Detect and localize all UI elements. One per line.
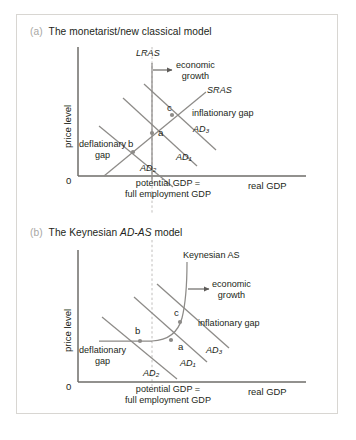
- panel-a-origin-label: 0: [66, 175, 71, 186]
- panel-b-point-b-label: b: [135, 325, 140, 336]
- panel-a-point-a-label: a: [158, 127, 163, 138]
- panel-b-ad2-label: AD₂: [143, 368, 159, 379]
- panel-a-deflationary-gap-line1: deflationary: [79, 139, 126, 149]
- panel-b-point-c-marker: [178, 320, 182, 324]
- panel-b-x-caption-line1: potential GDP =: [136, 384, 200, 394]
- panel-b-economic-growth-line2: growth: [218, 290, 245, 300]
- panel-a-point-c-label: c: [167, 102, 172, 113]
- panel-b-deflationary-gap-label: deflationary gap: [79, 345, 126, 366]
- panel-a-x-axis-label: real GDP: [248, 180, 287, 191]
- panel-a-x-caption-line2: full employment GDP: [125, 189, 211, 199]
- panel-b-economic-growth-line1: economic: [212, 279, 251, 289]
- panel-b-y-axis-label: price level: [62, 309, 73, 352]
- panel-b-x-axis-label: real GDP: [248, 386, 287, 397]
- panel-a-point-a-marker: [150, 131, 154, 135]
- panel-b-ad1-label: AD₁: [180, 358, 196, 369]
- panel-a-economic-growth-line2: growth: [182, 71, 209, 81]
- panel-a-sras-label: SRAS: [207, 85, 232, 96]
- panel-b-inflationary-gap-label: inflationary gap: [198, 318, 260, 329]
- panel-b-economic-growth-label: economic growth: [212, 279, 251, 300]
- panel-b-point-b-marker: [138, 339, 142, 343]
- panel-a-economic-growth-line1: economic: [176, 60, 215, 70]
- panel-a-ad2-label: AD₂: [140, 163, 156, 174]
- panel-a-ad3-label: AD₃: [193, 124, 209, 135]
- panel-a-economic-growth-label: economic growth: [176, 60, 215, 81]
- panel-a-deflationary-gap-line2: gap: [95, 150, 110, 160]
- panel-b-point-a-marker: [169, 338, 173, 342]
- panel-b-origin-label: 0: [66, 381, 71, 392]
- panel-b-point-a-label: a: [178, 341, 183, 352]
- panel-b-ad3-label: AD₃: [206, 345, 222, 356]
- panel-a-inflationary-gap-label: inflationary gap: [192, 108, 254, 119]
- panel-b-point-c-label: c: [174, 307, 179, 318]
- panel-a-ad1-label: AD₁: [176, 152, 192, 163]
- panel-b-x-axis-caption: potential GDP = full employment GDP: [103, 384, 233, 405]
- figure-container: (a)The monetarist/new classical model (b…: [0, 0, 356, 440]
- panel-a-point-c-marker: [170, 113, 174, 117]
- panel-a-y-axis-label: price level: [62, 105, 73, 148]
- panel-a-point-b-label: b: [128, 138, 133, 149]
- panel-b-keynesian-as-italic: AS: [228, 250, 240, 260]
- panel-b-x-caption-line2: full employment GDP: [125, 395, 211, 405]
- panel-b-keynesian-as-label: Keynesian AS: [183, 250, 240, 261]
- panel-a-point-b-marker: [131, 150, 135, 154]
- panel-b-keynesian-as-curve: [99, 262, 187, 341]
- panel-b-deflationary-gap-line2: gap: [95, 356, 110, 366]
- panel-b-deflationary-gap-line1: deflationary: [79, 345, 126, 355]
- panel-a-lras-label: LRAS: [136, 48, 160, 59]
- panel-a-deflationary-gap-label: deflationary gap: [79, 139, 126, 160]
- panel-b-keynesian-as-pre: Keynesian: [183, 250, 228, 260]
- panel-a-x-caption-line1: potential GDP =: [136, 178, 200, 188]
- panel-a-x-axis-caption: potential GDP = full employment GDP: [103, 178, 233, 199]
